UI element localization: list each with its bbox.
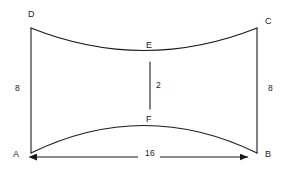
measure-label-left-side: 8 [15, 84, 20, 93]
diagram-canvas: D C A B E F 8 8 2 16 [0, 0, 288, 173]
vertex-label-b: B [265, 150, 271, 159]
measure-label-right-side: 8 [268, 84, 273, 93]
concave-arc-dc [31, 28, 257, 51]
vertex-label-f: F [146, 115, 152, 124]
geometry-figure [0, 0, 288, 173]
measure-label-base: 16 [143, 149, 157, 158]
vertex-label-c: C [265, 17, 272, 26]
vertex-label-e: E [146, 41, 152, 50]
measure-label-middle-segment: 2 [156, 81, 161, 90]
vertex-label-a: A [13, 150, 19, 159]
vertex-label-d: D [28, 10, 35, 19]
